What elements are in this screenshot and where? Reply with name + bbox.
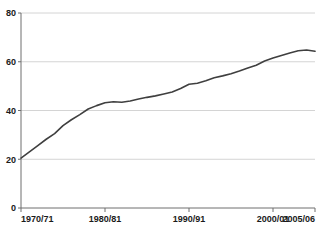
x-tick-label: 1970/71 [21,214,54,224]
y-tick-label: 80 [6,8,16,18]
chart-background [0,0,327,226]
x-tick-label: 1990/91 [173,214,206,224]
y-tick-label: 20 [6,155,16,165]
chart-canvas: 020406080 1970/711980/811990/912000/0120… [0,0,327,226]
y-tick-label: 0 [11,203,16,213]
x-tick-label: 1980/81 [89,214,122,224]
x-tick-label: 2005/06 [282,214,315,224]
y-tick-label: 40 [6,106,16,116]
y-tick-label: 60 [6,57,16,67]
line-chart: 020406080 1970/711980/811990/912000/0120… [0,0,327,226]
